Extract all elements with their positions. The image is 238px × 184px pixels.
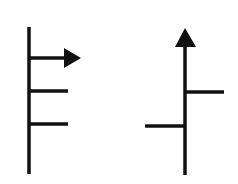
diagram-canvas xyxy=(0,0,238,184)
right-arrowhead-icon xyxy=(64,48,81,68)
up-arrowhead-icon xyxy=(175,28,196,47)
right-figure xyxy=(145,28,224,175)
left-figure xyxy=(29,27,81,174)
